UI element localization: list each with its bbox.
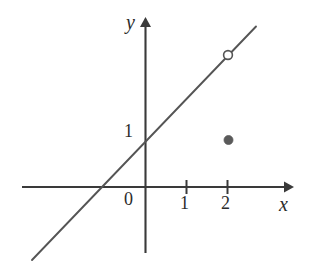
graph-canvas [0, 0, 310, 267]
x-axis-label: x [279, 194, 288, 214]
y-tick-label-1: 1 [124, 122, 133, 140]
coordinate-plane-figure: y x 0 1 2 1 [0, 0, 310, 267]
line-graph-y-equals-x-plus-1 [32, 27, 256, 261]
x-tick-label-2: 2 [221, 194, 230, 212]
x-tick-label-1: 1 [180, 194, 189, 212]
x-axis-arrowhead [284, 182, 294, 193]
open-circle-point [224, 51, 233, 60]
y-axis-arrowhead [140, 17, 151, 27]
origin-label: 0 [124, 190, 133, 208]
y-axis-label: y [126, 12, 135, 32]
filled-circle-point [224, 136, 233, 145]
y-axis [140, 17, 151, 253]
x-axis [22, 182, 294, 193]
